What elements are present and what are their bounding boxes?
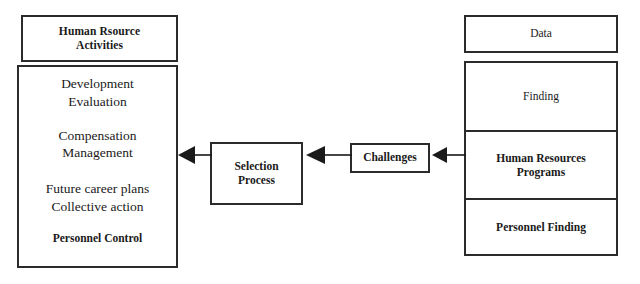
activity-item-label: Collective action <box>19 198 176 216</box>
activity-item-label: Personnel Control <box>19 231 176 246</box>
challenges-box: Challenges <box>350 143 430 173</box>
activity-group: Personnel Control <box>19 231 176 246</box>
right-stack-box: Finding Human Resources Programs Personn… <box>464 61 618 256</box>
hr-activities-header-box: Human Rsource Activities <box>21 15 178 62</box>
selection-process-box: Selection Process <box>210 142 303 205</box>
activity-item-label: Development <box>19 75 176 93</box>
hr-activities-list-box: Development Evaluation Compensation Mana… <box>17 65 178 268</box>
arrow-left-icon <box>430 143 466 167</box>
arrow-left-icon <box>176 143 212 167</box>
selection-process-label: Selection Process <box>230 160 282 187</box>
challenges-label: Challenges <box>359 151 421 165</box>
activity-item-label: Management <box>19 144 176 162</box>
diagram-canvas: Human Rsource Activities Development Eva… <box>0 0 640 284</box>
personnel-finding-cell: Personnel Finding <box>466 198 616 254</box>
arrow-left-icon <box>302 143 352 167</box>
data-box: Data <box>464 15 618 53</box>
activity-group: Development Evaluation <box>19 75 176 111</box>
data-label: Data <box>526 27 556 41</box>
activity-item-label: Future career plans <box>19 180 176 198</box>
finding-cell: Finding <box>466 63 616 130</box>
finding-label: Finding <box>523 89 559 103</box>
activity-item-label: Evaluation <box>19 93 176 111</box>
activity-item-label: Compensation <box>19 127 176 145</box>
personnel-finding-label: Personnel Finding <box>496 220 586 234</box>
activity-group: Future career plans Collective action <box>19 180 176 215</box>
hr-programs-label: Human Resources Programs <box>496 151 586 179</box>
hr-programs-cell: Human Resources Programs <box>466 130 616 198</box>
hr-activities-header-label: Human Rsource Activities <box>55 25 144 52</box>
activity-group: Compensation Management <box>19 127 176 163</box>
